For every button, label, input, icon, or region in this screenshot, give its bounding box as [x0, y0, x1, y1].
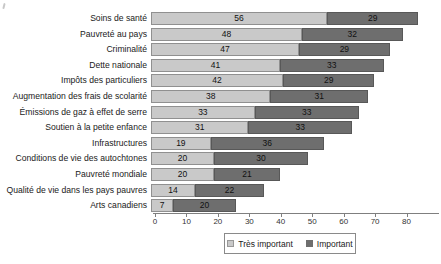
category-label: Arts canadiens — [0, 199, 151, 212]
x-axis-tick-label: 0 — [153, 217, 157, 226]
bar-row: Criminalité4729 — [0, 43, 438, 56]
x-axis-tick-label: 50 — [308, 217, 317, 226]
bar-segment-important: 20 — [173, 199, 236, 212]
x-axis-tick-label: 10 — [182, 217, 191, 226]
bar-segment-important: 33 — [248, 121, 352, 134]
category-label: Augmentation des frais de scolarité — [0, 90, 151, 103]
bar-segment-tres-important: 47 — [151, 43, 299, 56]
bar-segment-important: 33 — [280, 59, 384, 72]
legend-item-tres-important: Très important — [227, 239, 292, 249]
bar-value-label: 22 — [225, 185, 234, 196]
bar-track: 1936 — [151, 137, 434, 150]
legend-item-important: Important — [306, 239, 353, 249]
bar-segment-tres-important: 7 — [151, 199, 173, 212]
bar-row: Infrastructures1936 — [0, 137, 438, 150]
category-label: Criminalité — [0, 43, 151, 56]
bar-segment-tres-important: 14 — [151, 184, 195, 197]
bar-value-label: 14 — [168, 185, 177, 196]
bar-value-label: 41 — [211, 60, 220, 71]
bar-row: Conditions de vie des autochtones2030 — [0, 152, 438, 165]
bar-value-label: 47 — [220, 44, 229, 55]
bar-value-label: 31 — [314, 91, 323, 102]
bar-segment-important: 29 — [283, 74, 374, 87]
bar-row: Qualité de vie dans les pays pauvres1422 — [0, 184, 438, 197]
category-label: Infrastructures — [0, 137, 151, 150]
legend-swatch-important — [306, 240, 313, 247]
bar-segment-tres-important: 38 — [151, 90, 270, 103]
bar-value-label: 30 — [256, 153, 265, 164]
category-label: Émissions de gaz à effet de serre — [0, 106, 151, 119]
bar-track: 4229 — [151, 74, 434, 87]
bar-row: Soutien à la petite enfance3133 — [0, 121, 438, 134]
bar-value-label: 33 — [302, 107, 311, 118]
bar-segment-important: 33 — [255, 106, 359, 119]
bar-value-label: 7 — [160, 200, 165, 211]
bar-value-label: 48 — [222, 29, 231, 40]
bar-track: 4133 — [151, 59, 434, 72]
chart-rows: Soins de santé5629Pauvreté au pays4832Cr… — [0, 12, 438, 212]
bar-row: Impôts des particuliers4229 — [0, 74, 438, 87]
category-label: Impôts des particuliers — [0, 74, 151, 87]
bar-segment-tres-important: 56 — [151, 12, 327, 25]
bar-row: Émissions de gaz à effet de serre3333 — [0, 106, 438, 119]
bar-segment-tres-important: 42 — [151, 74, 283, 87]
bar-segment-tres-important: 20 — [151, 168, 214, 181]
legend: Très important Important — [224, 233, 356, 254]
bar-segment-important: 29 — [299, 43, 390, 56]
bar-track: 1422 — [151, 184, 434, 197]
bar-value-label: 29 — [324, 75, 333, 86]
category-label: Soins de santé — [0, 12, 151, 25]
bar-value-label: 20 — [178, 169, 187, 180]
bar-track: 3831 — [151, 90, 434, 103]
category-label: Pauvreté mondiale — [0, 168, 151, 181]
bar-track: 3333 — [151, 106, 434, 119]
bar-segment-important: 31 — [270, 90, 367, 103]
bar-track: 5629 — [151, 12, 434, 25]
bar-row: Arts canadiens720 — [0, 199, 438, 212]
x-axis-tick-label: 70 — [371, 217, 380, 226]
bar-segment-tres-important: 20 — [151, 152, 214, 165]
bar-track: 2030 — [151, 152, 434, 165]
bar-segment-important: 32 — [302, 28, 403, 41]
bar-value-label: 36 — [263, 138, 272, 149]
bar-segment-tres-important: 41 — [151, 59, 280, 72]
bar-segment-important: 30 — [214, 152, 308, 165]
bar-segment-important: 21 — [214, 168, 280, 181]
bar-row: Soins de santé5629 — [0, 12, 438, 25]
x-axis-tick-label: 40 — [276, 217, 285, 226]
x-axis-tick-label: 30 — [245, 217, 254, 226]
bar-value-label: 32 — [347, 29, 356, 40]
bar-track: 4832 — [151, 28, 434, 41]
legend-label-tres-important: Très important — [238, 239, 292, 249]
category-label: Dette nationale — [0, 59, 151, 72]
bar-track: 4729 — [151, 43, 434, 56]
bar-segment-important: 29 — [327, 12, 418, 25]
x-axis-ticks: 01020304050607080 — [155, 213, 438, 229]
bar-value-label: 29 — [368, 13, 377, 24]
x-axis-tick-label: 20 — [213, 217, 222, 226]
scan-artifact — [2, 3, 5, 9]
bar-row: Dette nationale4133 — [0, 59, 438, 72]
bar-value-label: 20 — [178, 153, 187, 164]
bar-value-label: 19 — [176, 138, 185, 149]
bar-value-label: 33 — [327, 60, 336, 71]
bar-value-label: 38 — [206, 91, 215, 102]
category-label: Qualité de vie dans les pays pauvres — [0, 184, 151, 197]
bar-value-label: 21 — [242, 169, 251, 180]
legend-label-important: Important — [317, 239, 353, 249]
bar-value-label: 31 — [195, 122, 204, 133]
bar-value-label: 33 — [296, 122, 305, 133]
bar-segment-tres-important: 33 — [151, 106, 255, 119]
bar-segment-tres-important: 19 — [151, 137, 211, 150]
bar-row: Augmentation des frais de scolarité3831 — [0, 90, 438, 103]
bar-segment-important: 36 — [211, 137, 324, 150]
category-label: Conditions de vie des autochtones — [0, 152, 151, 165]
bar-track: 720 — [151, 199, 434, 212]
bar-value-label: 33 — [198, 107, 207, 118]
x-axis-tick-label: 80 — [402, 217, 411, 226]
bar-row: Pauvreté mondiale2021 — [0, 168, 438, 181]
bar-segment-tres-important: 48 — [151, 28, 302, 41]
bar-row: Pauvreté au pays4832 — [0, 28, 438, 41]
x-axis-tick-label: 60 — [339, 217, 348, 226]
legend-swatch-tres-important — [227, 240, 234, 247]
